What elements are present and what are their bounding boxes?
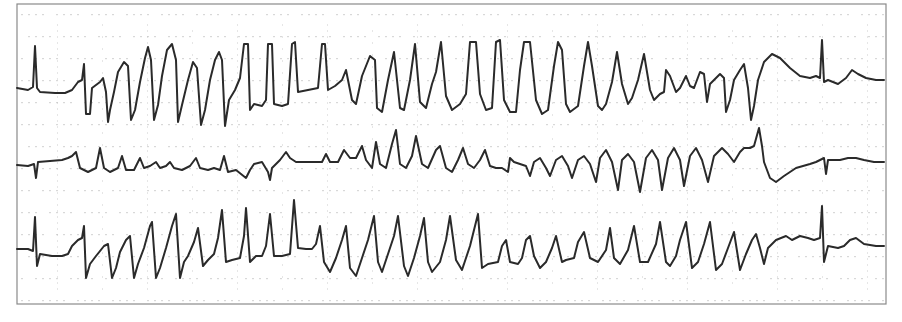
lead-1-trace <box>17 40 884 126</box>
ecg-strip <box>0 0 902 322</box>
lead-2-trace <box>17 128 884 192</box>
